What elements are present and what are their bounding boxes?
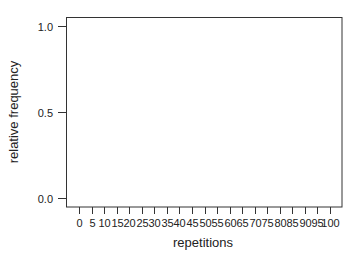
x-tick-label: 45 <box>186 217 198 229</box>
x-tick-label: 0 <box>76 217 82 229</box>
y-axis-label: relative frequency <box>6 60 21 163</box>
x-tick-label: 80 <box>274 217 286 229</box>
x-axis: 0510152025303540455055606570758085909510… <box>76 207 339 229</box>
x-tick-label: 70 <box>249 217 261 229</box>
x-tick-label: 65 <box>236 217 248 229</box>
y-tick-label: 0.5 <box>38 107 53 119</box>
x-tick-label: 50 <box>199 217 211 229</box>
x-tick-label: 25 <box>136 217 148 229</box>
x-tick-label: 40 <box>173 217 185 229</box>
chart: 0.00.51.0 051015202530354045505560657075… <box>0 0 358 259</box>
y-tick-label: 1.0 <box>38 21 53 33</box>
x-tick-label: 20 <box>123 217 135 229</box>
x-tick-label: 85 <box>286 217 298 229</box>
y-tick-label: 0.0 <box>38 193 53 205</box>
y-axis: 0.00.51.0 <box>38 21 67 205</box>
x-tick-label: 10 <box>98 217 110 229</box>
x-tick-label: 100 <box>321 217 339 229</box>
x-tick-label: 5 <box>89 217 95 229</box>
x-tick-label: 60 <box>224 217 236 229</box>
x-tick-label: 15 <box>111 217 123 229</box>
x-tick-label: 90 <box>299 217 311 229</box>
x-tick-label: 75 <box>261 217 273 229</box>
x-tick-label: 35 <box>161 217 173 229</box>
x-axis-label: repetitions <box>173 235 233 250</box>
x-tick-label: 30 <box>148 217 160 229</box>
x-tick-label: 55 <box>211 217 223 229</box>
plot-frame <box>67 18 343 208</box>
